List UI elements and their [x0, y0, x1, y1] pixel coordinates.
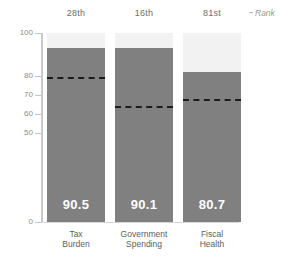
bar-value-tax-burden: 90.5 — [47, 197, 105, 212]
bar-government-spending[interactable] — [115, 48, 173, 222]
y-tick-mark-100 — [35, 33, 41, 34]
y-tick-label-100: 100 — [20, 28, 33, 38]
y-tick-mark-70 — [35, 95, 41, 96]
y-tick-mark-50 — [35, 133, 41, 134]
y-tick-100: 100 — [0, 28, 41, 38]
y-tick-mark-60 — [35, 114, 41, 115]
y-tick-label-60: 60 — [24, 109, 33, 119]
y-axis-line — [41, 33, 43, 223]
bar-value-fiscal-health: 80.7 — [183, 197, 241, 212]
y-tick-label-70: 70 — [24, 90, 33, 100]
chart-root: 28th 16th 81st Rank 100 80 70 60 — [0, 0, 281, 260]
bar-tax-burden[interactable] — [47, 48, 105, 222]
bar-value-government-spending: 90.1 — [115, 197, 173, 212]
plot-area: 100 80 70 60 50 0 90. — [0, 0, 281, 260]
y-tick-label-0: 0 — [29, 217, 33, 227]
x-axis-baseline — [41, 222, 239, 223]
y-tick-mark-0 — [35, 222, 41, 223]
y-tick-label-80: 80 — [24, 71, 33, 81]
category-label-tax-burden: Tax Burden — [42, 229, 110, 249]
y-tick-mark-80 — [35, 76, 41, 77]
y-tick-0: 0 — [0, 217, 41, 227]
y-tick-80: 80 — [0, 71, 41, 81]
reference-line-government-spending — [115, 106, 173, 108]
y-tick-50: 50 — [0, 128, 41, 138]
category-label-government-spending: Government Spending — [110, 229, 178, 249]
reference-line-fiscal-health — [183, 99, 241, 101]
category-label-fiscal-health: Fiscal Health — [178, 229, 246, 249]
y-tick-70: 70 — [0, 90, 41, 100]
reference-line-tax-burden — [47, 77, 105, 79]
y-tick-60: 60 — [0, 109, 41, 119]
y-tick-label-50: 50 — [24, 128, 33, 138]
